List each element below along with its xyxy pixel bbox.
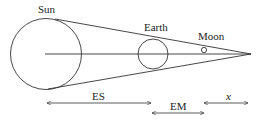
em-label: EM [170, 100, 187, 112]
earth-label: Earth [144, 21, 168, 33]
moon-label: Moon [198, 30, 225, 42]
es-label: ES [92, 90, 105, 102]
eclipse-diagram: Sun Earth Moon ES EM x [0, 0, 263, 124]
moon-circle [201, 47, 206, 52]
sun-label: Sun [38, 3, 56, 15]
x-label: x [225, 90, 231, 102]
